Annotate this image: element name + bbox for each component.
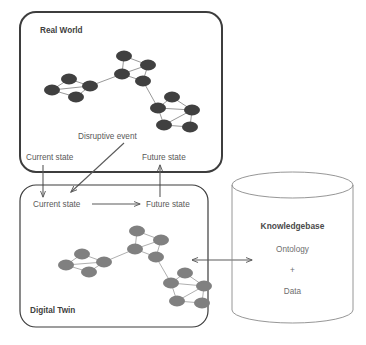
graph-node <box>68 92 84 103</box>
graph-node <box>96 257 112 268</box>
digital-twin-diagram: Real World <box>0 0 366 345</box>
graph-node <box>116 51 132 62</box>
inter-box-connectors <box>43 143 160 197</box>
graph-node <box>177 268 193 279</box>
digital-twin-network-nodes <box>58 226 212 309</box>
graph-node <box>182 122 198 133</box>
graph-node <box>114 69 130 80</box>
graph-node <box>153 235 169 246</box>
digital-twin-label: Digital Twin <box>30 306 75 315</box>
digital-twin-current-state-label: Current state <box>33 200 81 209</box>
knowledgebase-cylinder-top <box>232 172 353 198</box>
graph-node <box>150 103 166 114</box>
knowledgebase-cylinder-body <box>232 185 353 323</box>
graph-node <box>127 244 143 255</box>
real-world-network-edges <box>52 56 192 127</box>
graph-node <box>194 298 210 309</box>
graph-node <box>164 92 180 103</box>
knowledgebase-line-plus: + <box>290 266 295 275</box>
disruptive-event-label: Disruptive event <box>78 132 137 141</box>
real-world-label: Real World <box>40 26 83 35</box>
graph-node <box>61 74 77 85</box>
graph-node <box>82 81 98 92</box>
graph-node <box>156 120 172 131</box>
graph-node <box>58 260 74 271</box>
graph-node <box>140 60 156 71</box>
real-world-current-state-label: Current state <box>26 153 74 162</box>
graph-node <box>184 105 200 116</box>
real-world-group: Real World <box>20 12 222 172</box>
real-world-future-state-label: Future state <box>142 153 186 162</box>
real-world-network-nodes <box>44 51 200 133</box>
graph-node <box>163 278 179 289</box>
graph-node <box>44 85 60 96</box>
knowledgebase-line-ontology: Ontology <box>276 245 310 254</box>
knowledgebase-group: Knowledgebase Ontology + Data <box>232 172 353 323</box>
graph-node <box>129 226 145 237</box>
digital-twin-group: Current state Future state <box>20 185 212 327</box>
knowledgebase-title: Knowledgebase <box>261 221 325 231</box>
graph-node <box>148 252 164 263</box>
graph-node <box>74 249 90 260</box>
graph-node <box>81 267 97 278</box>
graph-node <box>196 281 212 292</box>
knowledgebase-line-data: Data <box>284 287 302 296</box>
graph-node <box>169 296 185 307</box>
digital-twin-future-state-label: Future state <box>146 200 190 209</box>
diagram-canvas: Real World <box>0 0 366 345</box>
graph-node <box>135 76 151 87</box>
